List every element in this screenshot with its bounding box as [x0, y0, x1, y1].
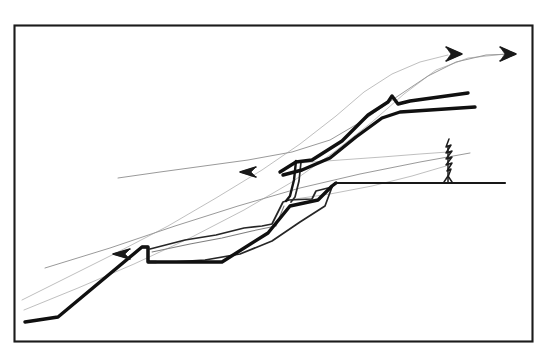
sketch-canvas — [0, 0, 549, 364]
figure-root — [0, 0, 549, 364]
